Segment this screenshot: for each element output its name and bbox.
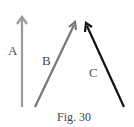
vector-label-a: A bbox=[8, 43, 17, 59]
vector-label-b: B bbox=[42, 53, 51, 69]
figure-caption: Fig. 30 bbox=[57, 110, 91, 125]
vector-label-c: C bbox=[89, 65, 98, 81]
vector-diagram bbox=[0, 0, 134, 127]
vector-a bbox=[17, 17, 27, 107]
